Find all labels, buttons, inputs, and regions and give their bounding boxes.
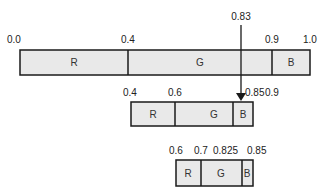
segment-label-g: G [210, 109, 218, 120]
bar-level-2: 0.4 0.6 0.85 0.9 R G B [123, 87, 279, 126]
segment-label-g: G [217, 168, 225, 179]
segment-label-b: B [240, 109, 247, 120]
bar-level-1: 0.0 0.4 0.9 1.0 R G B [7, 34, 317, 75]
pointer-label: 0.83 [231, 11, 251, 22]
tick-label: 0.6 [169, 145, 183, 156]
segment-label-b: B [244, 168, 251, 179]
tick-label: 0.0 [7, 34, 21, 45]
segment-label-g: G [196, 57, 204, 68]
tick-label: 1.0 [303, 34, 317, 45]
bar-level-1-frame [20, 50, 310, 75]
interval-diagram: 0.0 0.4 0.9 1.0 R G B 0.83 0.4 0.6 0.85 … [0, 0, 329, 196]
tick-label: 0.825 [213, 145, 238, 156]
segment-label-b: B [288, 57, 295, 68]
tick-label: 0.85 [245, 87, 265, 98]
tick-label: 0.85 [247, 145, 267, 156]
tick-label: 0.9 [265, 87, 279, 98]
tick-label: 0.9 [265, 34, 279, 45]
segment-label-r: R [70, 57, 77, 68]
bar-level-3: 0.6 0.7 0.825 0.85 R G B [169, 145, 267, 186]
tick-label: 0.7 [194, 145, 208, 156]
tick-label: 0.4 [123, 87, 137, 98]
segment-label-r: R [149, 109, 156, 120]
segment-label-r: R [184, 168, 191, 179]
tick-label: 0.6 [168, 87, 182, 98]
tick-label: 0.4 [121, 34, 135, 45]
